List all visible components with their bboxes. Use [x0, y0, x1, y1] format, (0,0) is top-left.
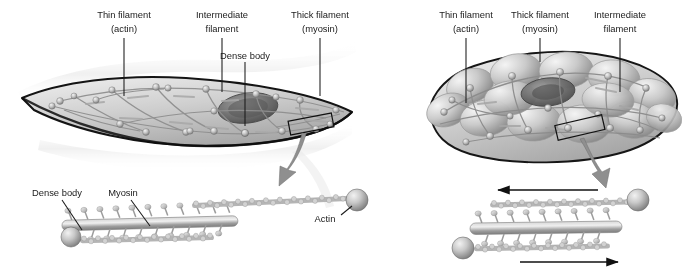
detail-relaxed: Dense body Myosin Actin — [32, 187, 368, 247]
labels-relaxed: Thin filament (actin) Intermediate filam… — [97, 9, 349, 61]
label-thick-filament: Thick filament — [291, 9, 349, 20]
label-myosin-detail: Myosin — [108, 187, 138, 198]
actin-bottom-contracted — [474, 242, 610, 253]
label-thick-filament: Thick filament — [511, 9, 569, 20]
label-thick-filament-sub: (myosin) — [302, 23, 338, 34]
label-thin-filament: Thin filament — [97, 9, 151, 20]
panel-relaxed: Thin filament (actin) Intermediate filam… — [18, 9, 356, 208]
label-actin-detail: Actin — [315, 213, 336, 224]
label-thin-filament-sub: (actin) — [111, 23, 137, 34]
label-dense-body: Dense body — [220, 50, 270, 61]
label-dense-body-detail: Dense body — [32, 187, 82, 198]
label-intermediate-filament-sub: filament — [604, 23, 637, 34]
label-intermediate-filament: Intermediate — [594, 9, 646, 20]
label-thin-filament-sub: (actin) — [453, 23, 479, 34]
diagram-svg: Thin filament (actin) Intermediate filam… — [0, 0, 690, 278]
dense-body-sphere — [627, 189, 649, 211]
detail-contracted — [452, 189, 649, 262]
myosin-heads-up-contracted — [475, 207, 610, 222]
panel-contracted: Thin filament (actin) Thick filament (my… — [422, 9, 686, 188]
dense-body-sphere — [61, 227, 81, 247]
thick-filament-relaxed — [62, 216, 238, 231]
label-thin-filament: Thin filament — [439, 9, 493, 20]
label-intermediate-filament-sub: filament — [206, 23, 239, 34]
actin-top-contracted — [490, 198, 630, 209]
labels-contracted: Thin filament (actin) Thick filament (my… — [439, 9, 646, 34]
label-thick-filament-sub: (myosin) — [522, 23, 558, 34]
label-intermediate-filament: Intermediate — [196, 9, 248, 20]
actin-bottom-relaxed — [80, 233, 214, 244]
figure-canvas: Thin filament (actin) Intermediate filam… — [0, 0, 690, 278]
dense-body-sphere — [452, 237, 474, 259]
